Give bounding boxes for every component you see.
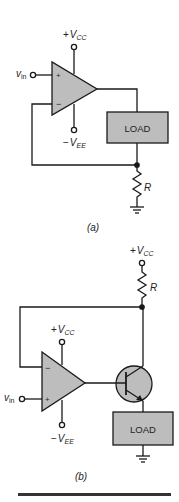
minus-input-label: − [45, 363, 50, 373]
caption-b: (b) [75, 471, 87, 482]
plus-input-label: + [56, 71, 61, 80]
resistor-icon [138, 266, 146, 307]
ground-icon [130, 207, 144, 213]
supply-neg-label: −VEE [51, 433, 74, 445]
resistor-icon [133, 165, 141, 207]
terminal-icon [59, 422, 64, 427]
circuit-diagrams: +VCC + − vin −VEE LOAD R (a) [0, 0, 179, 502]
circuit-a: +VCC + − vin −VEE LOAD R (a) [16, 29, 168, 233]
minus-input-label: − [56, 99, 61, 109]
divider-bar [18, 493, 171, 496]
supply-top-label: +VCC [130, 245, 155, 257]
terminal-icon [19, 396, 24, 401]
terminal-icon [59, 339, 64, 344]
supply-pos-label: +VCC [63, 29, 88, 41]
ground-icon [136, 456, 150, 462]
terminal-icon [139, 260, 144, 265]
terminal-icon [71, 44, 76, 49]
supply-neg-label: −VEE [63, 137, 86, 149]
caption-a: (a) [87, 222, 99, 233]
supply-pos-label: +VCC [51, 324, 76, 336]
terminal-icon [30, 72, 35, 77]
input-label: vin [16, 68, 27, 80]
circuit-b: +VCC R +VCC − + vin −VEE [4, 245, 173, 482]
load-label: LOAD [130, 424, 156, 435]
terminal-icon [71, 127, 76, 132]
transistor-icon [85, 307, 152, 412]
input-label: vin [4, 392, 15, 404]
resistor-label: R [144, 182, 151, 193]
plus-input-label: + [45, 395, 50, 404]
load-label: LOAD [125, 123, 151, 134]
resistor-label: R [150, 282, 157, 293]
